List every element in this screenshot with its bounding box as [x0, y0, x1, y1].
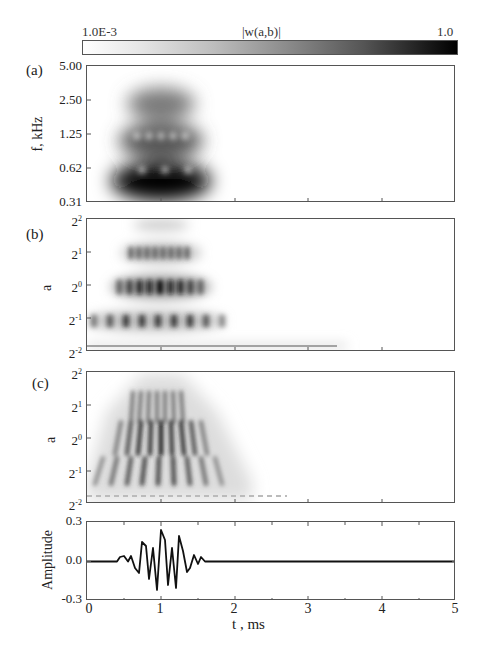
- panel-b-plot: [86, 218, 455, 351]
- panel-c-ytick: 21: [38, 398, 82, 414]
- panel-c-ytick: 2-2: [38, 496, 82, 512]
- waveform-line: [87, 522, 455, 600]
- colorbar-min-label: 1.0E-3: [82, 24, 117, 40]
- panel-c-ytick: 22: [38, 365, 82, 381]
- x-tick: 4: [372, 601, 392, 617]
- panel-b-ytick: 21: [38, 245, 82, 261]
- panel-a-ytick: 2.50: [38, 93, 82, 106]
- panel-b-ytick: 2-1: [38, 311, 82, 327]
- colorbar-max-label: 1.0: [437, 24, 453, 40]
- panel-b-ytick: 22: [38, 212, 82, 228]
- colorbar-title: |w(a,b)|: [242, 24, 281, 40]
- panel-a-ytick: 5.00: [38, 59, 82, 72]
- colorbar: [82, 40, 458, 55]
- panel-d-ytick: 0.0: [38, 553, 82, 566]
- x-tick: 0: [79, 601, 99, 617]
- panel-b-ytick: 2-2: [38, 344, 82, 360]
- x-tick: 2: [224, 601, 244, 617]
- panel-c-plot: [86, 371, 455, 503]
- panel-d-ytick: -0.3: [38, 592, 82, 605]
- panel-a-plot: [86, 65, 455, 202]
- x-tick: 5: [445, 601, 465, 617]
- panel-c-ytick: 20: [38, 431, 82, 447]
- panel-d-ytick: 0.3: [38, 514, 82, 527]
- panel-a-ytick: 0.62: [38, 161, 82, 174]
- x-axis-label: t , ms: [232, 616, 265, 633]
- panel-b-label: (b): [26, 226, 44, 243]
- panel-c-ytick: 2-1: [38, 464, 82, 480]
- panel-d-plot: [86, 521, 455, 600]
- panel-a-ytick: 1.25: [38, 127, 82, 140]
- x-tick: 3: [298, 601, 318, 617]
- x-tick: 1: [150, 601, 170, 617]
- panel-b-ytick: 20: [38, 278, 82, 294]
- panel-a-ytick: 0.31: [38, 195, 82, 208]
